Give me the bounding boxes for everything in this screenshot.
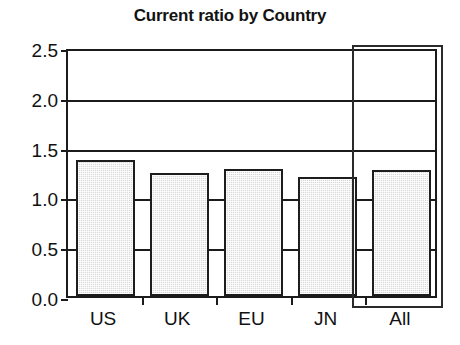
- y-axis-tick-label: 0.5: [32, 239, 58, 261]
- bar: [224, 169, 283, 296]
- x-axis-label-us: US: [66, 308, 140, 330]
- bar: [76, 160, 135, 296]
- chart-title: Current ratio by Country: [0, 6, 460, 26]
- y-axis-tick-label: 1.5: [32, 140, 58, 162]
- y-axis-tick: [61, 299, 68, 301]
- plot-area: 0.00.51.01.52.02.5: [66, 49, 437, 298]
- x-axis-label-jn: JN: [289, 308, 363, 330]
- y-axis-tick: [61, 150, 68, 152]
- x-axis-label-uk: UK: [140, 308, 214, 330]
- bar-chart: Current ratio by Country 0.00.51.01.52.0…: [0, 0, 460, 345]
- y-axis-tick: [61, 50, 68, 52]
- bar: [150, 173, 209, 297]
- y-axis-tick-label: 1.0: [32, 189, 58, 211]
- y-axis-tick: [61, 100, 68, 102]
- x-axis-tick: [365, 296, 367, 305]
- gridline: [68, 150, 435, 152]
- gridline: [68, 100, 435, 102]
- x-axis-label-eu: EU: [214, 308, 288, 330]
- x-axis-label-all: All: [363, 308, 437, 330]
- x-axis-tick: [216, 296, 218, 305]
- y-axis-tick-label: 0.0: [32, 289, 58, 311]
- x-axis-tick: [142, 296, 144, 305]
- y-axis-tick-label: 2.5: [32, 40, 58, 62]
- y-axis-tick: [61, 249, 68, 251]
- bar: [372, 170, 431, 296]
- y-axis-tick: [61, 199, 68, 201]
- y-axis-tick-label: 2.0: [32, 90, 58, 112]
- bar: [298, 177, 357, 296]
- x-axis-tick: [291, 296, 293, 305]
